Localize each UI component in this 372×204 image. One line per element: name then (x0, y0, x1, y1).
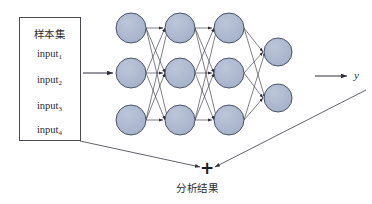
edges-layer3-output (244, 28, 265, 120)
node-l4-1 (264, 38, 292, 66)
node-l2-2 (165, 58, 195, 88)
input-2-base: input (37, 74, 59, 85)
combiner-plus-icon: + (200, 160, 214, 177)
feedback-line-left (80, 141, 200, 167)
node-l3-2 (214, 58, 244, 88)
input-3-label: input3 (19, 101, 80, 112)
neural-network-diagram: 样本集 input1 input2 input3 input4 y + 分析结果 (0, 0, 372, 204)
node-l2-3 (165, 105, 195, 135)
input-4-sub: 4 (59, 129, 63, 137)
node-l1-2 (116, 58, 146, 88)
network-nodes (116, 13, 292, 135)
input-4-label: input4 (19, 125, 80, 136)
node-l2-1 (165, 13, 195, 43)
input-1-label: input1 (19, 49, 80, 60)
sample-set-heading: 样本集 (19, 29, 80, 40)
node-l3-3 (214, 105, 244, 135)
input-2-label: input2 (19, 75, 80, 86)
node-l4-2 (264, 84, 292, 112)
node-l1-3 (116, 105, 146, 135)
output-variable-label: y (354, 69, 359, 81)
input-3-sub: 3 (59, 105, 63, 113)
analysis-result-label: 分析结果 (176, 180, 218, 195)
input-3-base: input (37, 100, 59, 111)
input-2-sub: 2 (59, 79, 63, 87)
input-1-base: input (37, 48, 59, 59)
input-1-sub: 1 (59, 53, 63, 61)
input-4-base: input (37, 124, 59, 135)
node-l3-1 (214, 13, 244, 43)
node-l1-1 (116, 13, 146, 43)
